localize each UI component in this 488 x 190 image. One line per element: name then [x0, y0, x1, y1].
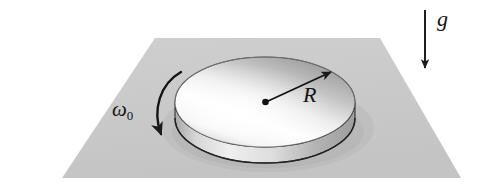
physics-figure: ω0 R g: [0, 0, 488, 190]
gravity-label: g: [437, 8, 448, 30]
omega-symbol: ω: [112, 97, 127, 121]
radius-label: R: [303, 84, 316, 106]
figure-canvas: [0, 0, 488, 190]
omega-subscript: 0: [127, 108, 134, 123]
angular-velocity-label: ω0: [112, 99, 133, 122]
